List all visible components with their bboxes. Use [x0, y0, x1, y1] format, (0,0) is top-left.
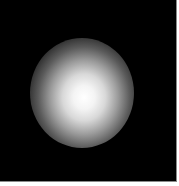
image-frame — [0, 0, 177, 182]
bright-spot — [30, 38, 134, 148]
